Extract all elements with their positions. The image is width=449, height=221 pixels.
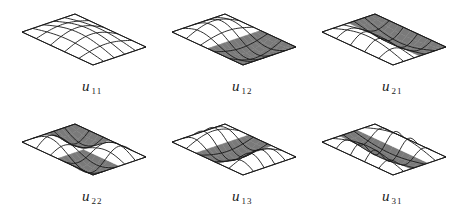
surface-plot bbox=[0, 0, 150, 110]
surface-panel-u13: u13 bbox=[150, 110, 300, 220]
mode-subscript: 21 bbox=[392, 86, 403, 96]
mode-symbol: u bbox=[232, 78, 240, 94]
mode-symbol: u bbox=[82, 188, 90, 204]
mode-label-u11: u11 bbox=[82, 78, 102, 96]
surface-plot bbox=[150, 110, 300, 220]
mode-label-u31: u31 bbox=[382, 188, 403, 206]
mode-symbol: u bbox=[382, 78, 390, 94]
mode-subscript: 13 bbox=[242, 196, 253, 206]
surface-panel-u22: u22 bbox=[0, 110, 150, 220]
surface-plot bbox=[0, 110, 150, 220]
mode-label-u21: u21 bbox=[382, 78, 403, 96]
surface-panel-u31: u31 bbox=[300, 110, 449, 220]
mode-label-u12: u12 bbox=[232, 78, 253, 96]
mode-symbol: u bbox=[382, 188, 390, 204]
mode-subscript: 31 bbox=[392, 196, 403, 206]
mode-symbol: u bbox=[82, 78, 90, 94]
surface-panel-u11: u11 bbox=[0, 0, 150, 110]
surface-panel-u21: u21 bbox=[300, 0, 449, 110]
surface-plot bbox=[300, 110, 449, 220]
mode-subscript: 12 bbox=[242, 86, 253, 96]
surface-plot bbox=[150, 0, 300, 110]
surface-panel-u12: u12 bbox=[150, 0, 300, 110]
mode-label-u22: u22 bbox=[82, 188, 103, 206]
mode-subscript: 22 bbox=[92, 196, 103, 206]
mode-subscript: 11 bbox=[92, 86, 103, 96]
mode-symbol: u bbox=[232, 188, 240, 204]
surface-plot bbox=[300, 0, 449, 110]
mode-label-u13: u13 bbox=[232, 188, 253, 206]
